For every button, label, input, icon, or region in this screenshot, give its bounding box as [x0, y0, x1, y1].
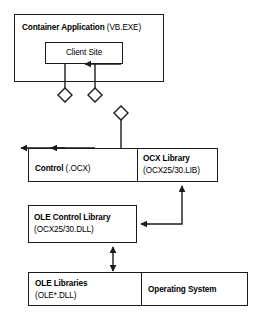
diamond-icon-1 — [58, 88, 72, 102]
control-subtitle: (.OCX) — [66, 164, 91, 173]
diamond-icon-3 — [114, 106, 128, 120]
ole-control-library-subtitle: (OCX25/30.DLL) — [34, 224, 94, 235]
ole-control-architecture-diagram: Container Application (VB.EXE) Client Si… — [0, 0, 265, 321]
container-application-title: Container Application — [22, 23, 105, 32]
control-row-divider — [137, 148, 138, 182]
bottom-row-divider — [141, 272, 142, 306]
connector-ole-control-library-to-ocx-library — [141, 186, 182, 224]
ocx-library-title: OCX Library — [143, 153, 190, 164]
operating-system-title: Operating System — [148, 284, 216, 295]
client-site-label: Client Site — [45, 47, 123, 58]
ole-libraries-title: OLE Libraries — [35, 278, 87, 289]
container-application-subtitle: (VB.EXE) — [107, 23, 141, 32]
diamond-icon-2 — [88, 88, 102, 102]
ocx-library-subtitle: (OCX25/30.LIB) — [143, 165, 200, 176]
control-label: Control (.OCX) — [35, 160, 90, 174]
ole-libraries-subtitle: (OLE*.DLL) — [35, 290, 76, 301]
ole-control-library-title: OLE Control Library — [34, 212, 110, 223]
control-title: Control — [35, 164, 63, 173]
container-application-label: Container Application (VB.EXE) — [22, 19, 141, 33]
